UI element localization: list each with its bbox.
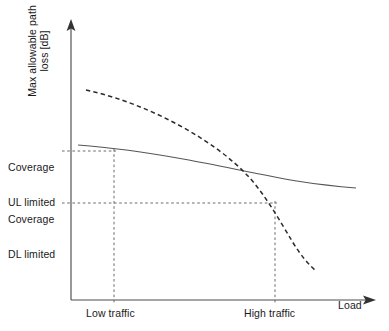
plot-canvas (0, 0, 389, 331)
curve-uplink-limited (78, 145, 356, 188)
y-axis-label-line1: Max allowable path (27, 0, 39, 111)
label-low-traffic: Low traffic (86, 308, 135, 320)
label-coverage-dl-limited: Coverage DL limited (8, 191, 55, 283)
y-axis-label: Max allowable path loss [dB] (27, 0, 57, 111)
curve-downlink-limited (86, 90, 316, 271)
y-axis-label-line2: loss [dB] (39, 0, 51, 111)
label-high-traffic: High traffic (244, 308, 295, 320)
x-axis-label: Load (338, 300, 362, 312)
label-coverage-dl-limited-line2: DL limited (8, 249, 55, 261)
label-coverage-dl-limited-line1: Coverage (8, 214, 55, 226)
figure-root: Max allowable path loss [dB] Coverage UL… (0, 0, 389, 331)
label-coverage-ul-limited-line1: Coverage (8, 162, 55, 174)
